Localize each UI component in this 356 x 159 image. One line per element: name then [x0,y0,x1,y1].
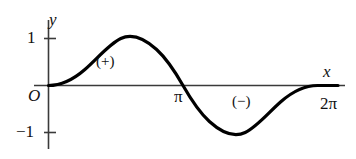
sine-curve-figure: y x 1 −1 O π 2π (+) (−) [0,0,356,159]
y-tick-label-negative-one: −1 [16,123,34,140]
positive-region-label: (+) [96,54,114,69]
negative-region-label: (−) [232,94,250,109]
x-tick-label-two-pi: 2π [320,95,337,112]
x-axis-label: x [323,63,331,80]
y-tick-label-one: 1 [27,29,36,46]
x-tick-label-pi: π [174,88,183,105]
y-axis-label: y [49,11,57,28]
origin-label: O [28,87,40,104]
